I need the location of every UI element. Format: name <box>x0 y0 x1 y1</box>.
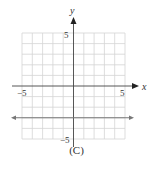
y-axis-label: y <box>69 5 75 16</box>
y-axis-arrow-icon <box>71 17 77 24</box>
x-axis-arrow-icon <box>132 83 139 89</box>
x-tick-neg5: −5 <box>17 88 27 98</box>
line-y-neg3 <box>11 116 134 120</box>
right-arrow-icon <box>129 116 134 120</box>
y-axis <box>71 17 77 147</box>
x-tick-5: 5 <box>120 88 125 98</box>
figure-caption: (C) <box>0 144 153 156</box>
x-axis-label: x <box>141 81 147 92</box>
left-arrow-icon <box>11 116 16 120</box>
y-tick-5: 5 <box>64 30 69 40</box>
